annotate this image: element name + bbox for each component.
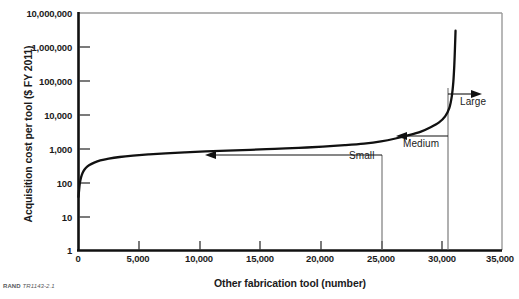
source-credit-prefix: RAND [3, 283, 21, 289]
x-axis-ticks [139, 241, 442, 250]
source-credit-id: TR1143-2.1 [23, 283, 55, 289]
plot-area [0, 0, 519, 299]
figure-container: Acquisition cost per tool ($ FY 2011) 10… [0, 0, 519, 299]
source-credit: RAND TR1143-2.1 [3, 283, 55, 289]
y-axis-ticks [79, 47, 90, 217]
data-series-line [79, 31, 456, 197]
annotation-arrow-small [205, 151, 382, 159]
